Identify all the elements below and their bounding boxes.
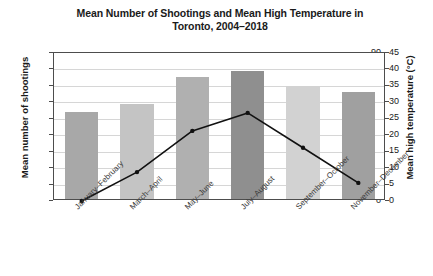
chart-title-line-2: Toronto, 2004–2018 <box>50 20 390 33</box>
data-point-marker <box>190 129 194 133</box>
y-tickmark-left <box>49 200 53 201</box>
y-tick-right: 5 <box>389 179 429 188</box>
data-point-marker <box>135 170 139 174</box>
chart-title: Mean Number of Shootings and Mean High T… <box>50 7 390 33</box>
y-tick-right: 40 <box>389 64 429 73</box>
y-tick-right: 0 <box>389 196 429 205</box>
data-point-marker <box>301 146 305 150</box>
y-tick-right: 30 <box>389 97 429 106</box>
chart-container: Mean Number of Shootings and Mean High T… <box>0 0 433 276</box>
y-tick-right: 45 <box>389 48 429 57</box>
y-tick-right: 25 <box>389 113 429 122</box>
data-point-marker <box>246 111 250 115</box>
chart-title-line-1: Mean Number of Shootings and Mean High T… <box>50 7 390 20</box>
y-tick-right: 20 <box>389 130 429 139</box>
y-axis-label-left: Mean number of shootings <box>19 48 30 188</box>
y-tick-right: 35 <box>389 80 429 89</box>
data-point-marker <box>356 181 360 185</box>
